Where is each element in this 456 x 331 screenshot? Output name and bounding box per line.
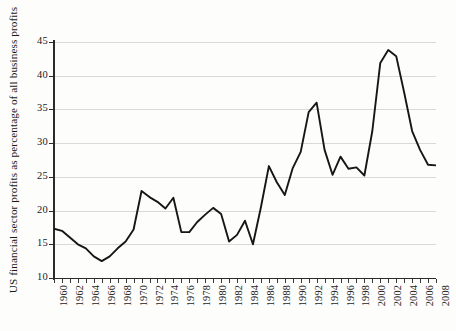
x-tick-mark xyxy=(70,279,71,283)
x-tick-label: 1998 xyxy=(360,285,371,306)
y-tick-label: 35 xyxy=(26,102,48,113)
x-tick-label: 2004 xyxy=(408,285,419,306)
chart-container: US financial sector profits as percentag… xyxy=(0,0,456,331)
x-tick-label: 1990 xyxy=(297,285,308,306)
x-tick-mark xyxy=(404,279,405,283)
x-tick-mark xyxy=(380,279,381,283)
x-tick-label: 1970 xyxy=(138,285,149,306)
x-tick-label: 1960 xyxy=(58,285,69,306)
x-tick-mark xyxy=(412,279,413,283)
x-tick-mark xyxy=(134,279,135,283)
plot-area xyxy=(54,42,436,278)
x-tick-mark xyxy=(245,279,246,283)
x-tick-mark xyxy=(205,279,206,283)
x-tick-label: 2008 xyxy=(440,285,451,306)
x-tick-mark xyxy=(237,279,238,283)
x-tick-label: 1980 xyxy=(217,285,228,306)
x-tick-mark xyxy=(118,279,119,283)
x-tick-mark xyxy=(110,279,111,283)
x-tick-mark xyxy=(277,279,278,283)
x-tick-label: 1968 xyxy=(122,285,133,306)
x-tick-mark xyxy=(102,279,103,283)
x-tick-label: 1976 xyxy=(185,285,196,306)
x-tick-mark xyxy=(229,279,230,283)
x-tick-mark xyxy=(165,279,166,283)
x-tick-label: 1974 xyxy=(169,285,180,306)
x-tick-label: 1966 xyxy=(106,285,117,306)
x-tick-label: 1978 xyxy=(201,285,212,306)
x-tick-label: 2006 xyxy=(424,285,435,306)
x-tick-mark xyxy=(333,279,334,283)
x-tick-mark xyxy=(356,279,357,283)
x-tick-mark xyxy=(428,279,429,283)
y-tick-label: 30 xyxy=(26,136,48,147)
x-tick-label: 1962 xyxy=(74,285,85,306)
x-tick-mark xyxy=(150,279,151,283)
x-tick-label: 1964 xyxy=(90,285,101,306)
y-tick-label: 20 xyxy=(26,204,48,215)
x-tick-label: 2002 xyxy=(392,285,403,306)
y-tick-label: 10 xyxy=(26,271,48,282)
x-tick-mark xyxy=(269,279,270,283)
y-tick-label: 40 xyxy=(26,69,48,80)
x-tick-mark xyxy=(253,279,254,283)
x-tick-mark xyxy=(221,279,222,283)
y-axis-title: US financial sector profits as percentag… xyxy=(0,0,26,300)
x-tick-label: 1992 xyxy=(313,285,324,306)
y-tick-label: 45 xyxy=(26,35,48,46)
x-tick-mark xyxy=(189,279,190,283)
x-tick-label: 1996 xyxy=(345,285,356,306)
x-tick-label: 1972 xyxy=(154,285,165,306)
x-tick-mark xyxy=(372,279,373,283)
x-tick-mark xyxy=(78,279,79,283)
x-tick-mark xyxy=(364,279,365,283)
x-tick-mark xyxy=(420,279,421,283)
series-svg xyxy=(54,42,436,278)
x-tick-label: 2000 xyxy=(376,285,387,306)
x-tick-mark xyxy=(197,279,198,283)
y-axis-title-text: US financial sector profits as percentag… xyxy=(7,7,19,293)
x-tick-mark xyxy=(62,279,63,283)
series-line-financial-sector-profits xyxy=(54,50,436,261)
x-tick-mark xyxy=(396,279,397,283)
x-tick-mark xyxy=(325,279,326,283)
x-tick-mark xyxy=(341,279,342,283)
x-tick-mark xyxy=(126,279,127,283)
x-tick-mark xyxy=(293,279,294,283)
x-tick-label: 1994 xyxy=(329,285,340,306)
x-tick-mark xyxy=(173,279,174,283)
x-tick-mark xyxy=(317,279,318,283)
x-tick-mark xyxy=(86,279,87,283)
x-tick-label: 1984 xyxy=(249,285,260,306)
x-tick-label: 1986 xyxy=(265,285,276,306)
x-tick-label: 1982 xyxy=(233,285,244,306)
x-tick-label: 1988 xyxy=(281,285,292,306)
x-tick-mark xyxy=(301,279,302,283)
x-tick-mark xyxy=(54,279,55,283)
x-tick-mark xyxy=(348,279,349,283)
y-tick-label: 15 xyxy=(26,237,48,248)
y-tick-label: 25 xyxy=(26,170,48,181)
x-tick-mark xyxy=(213,279,214,283)
x-tick-mark xyxy=(94,279,95,283)
x-tick-mark xyxy=(157,279,158,283)
x-tick-mark xyxy=(142,279,143,283)
x-tick-mark xyxy=(436,279,437,283)
x-tick-mark xyxy=(388,279,389,283)
x-tick-mark xyxy=(285,279,286,283)
x-tick-mark xyxy=(261,279,262,283)
x-tick-mark xyxy=(181,279,182,283)
x-tick-mark xyxy=(309,279,310,283)
